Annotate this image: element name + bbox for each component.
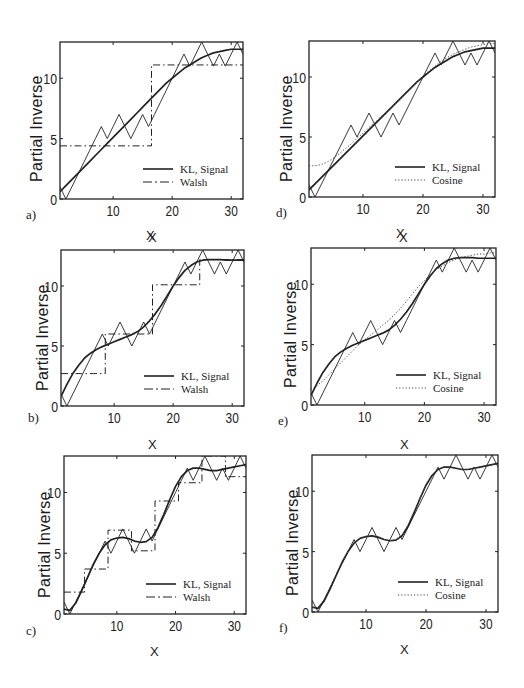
y-tick-label: 5	[51, 339, 58, 355]
y-tick-label: 5	[299, 130, 306, 146]
x-tick-label: 10	[356, 201, 369, 217]
y-tick-label: 0	[299, 190, 306, 206]
panel-c: 1020300510KL, SignalWalsh Partial Invers…	[0, 440, 262, 688]
ylabel-a: Partial Inverse	[28, 75, 46, 182]
legend-label-basis: Cosine	[435, 589, 466, 601]
panel-d: 1020300510KL, SignalCosine Partial Inver…	[262, 0, 524, 230]
ylabel-b: Partial Inverse	[34, 284, 52, 391]
legend-label-kl: KL, Signal	[435, 576, 483, 588]
panel-a: 1020300510KL, SignalWalsh Partial Invers…	[0, 0, 262, 230]
xlabel-f-top: X	[400, 437, 409, 452]
x-tick-label: 20	[169, 618, 182, 634]
x-tick-label: 10	[107, 203, 120, 219]
y-tick-label: 0	[51, 399, 58, 415]
x-tick-label: 20	[166, 203, 179, 219]
y-tick-label: 5	[54, 546, 61, 562]
x-tick-label: 10	[358, 409, 371, 425]
xlabel-e: X	[399, 230, 408, 245]
x-tick-label: 30	[226, 410, 239, 426]
plot-e: 1020300510KL, SignalCosine	[262, 220, 524, 450]
x-tick-label: 30	[477, 409, 490, 425]
series-signal	[309, 41, 495, 197]
panel-e: 1020300510KL, SignalCosine Partial Inver…	[262, 220, 524, 450]
xlabel-c: X	[150, 644, 159, 659]
xlabel-c-top: X	[148, 437, 157, 452]
series-walsh	[60, 65, 243, 146]
tag-d: d)	[276, 205, 287, 221]
x-tick-label: 30	[476, 201, 489, 217]
x-tick-label: 20	[419, 616, 432, 632]
tag-f: f)	[279, 620, 288, 636]
legend-label-kl: KL, Signal	[433, 369, 481, 381]
legend-label-kl: KL, Signal	[181, 370, 229, 382]
ylabel-d: Partial Inverse	[278, 75, 296, 182]
x-tick-label: 10	[108, 410, 121, 426]
tag-c: c)	[26, 623, 36, 639]
legend-label-kl: KL, Signal	[183, 578, 231, 590]
x-tick-label: 20	[167, 410, 180, 426]
legend-label-kl: KL, Signal	[432, 161, 480, 173]
panel-b: 1020300510KL, SignalWalsh Partial Invers…	[0, 220, 262, 450]
ylabel-c: Partial Inverse	[36, 491, 54, 598]
tag-e: e)	[278, 413, 288, 429]
x-tick-label: 30	[225, 203, 238, 219]
x-tick-label: 10	[110, 618, 123, 634]
y-tick-label: 0	[50, 192, 57, 208]
x-tick-label: 20	[416, 201, 429, 217]
tag-b: b)	[28, 410, 39, 426]
legend-label-basis: Cosine	[432, 174, 463, 186]
y-tick-label: 0	[301, 398, 308, 414]
y-tick-label: 5	[50, 131, 57, 147]
panel-f: 1020300510KL, SignalCosine Partial Inver…	[262, 440, 524, 688]
legend-label-basis: Walsh	[183, 591, 211, 603]
xlabel-b: X	[148, 230, 157, 245]
plot-d: 1020300510KL, SignalCosine	[262, 0, 524, 230]
series-signal	[312, 455, 498, 612]
series-signal	[311, 248, 496, 405]
legend-label-basis: Walsh	[180, 176, 208, 188]
ylabel-e: Partial Inverse	[282, 281, 300, 388]
series-walsh	[61, 260, 244, 374]
xlabel-f: X	[400, 642, 409, 657]
x-tick-label: 20	[418, 409, 431, 425]
y-tick-label: 0	[302, 605, 309, 621]
legend-label-basis: Cosine	[433, 382, 464, 394]
y-tick-label: 5	[302, 544, 309, 560]
legend-label-basis: Walsh	[181, 383, 209, 395]
y-tick-label: 5	[301, 337, 308, 353]
legend-label-kl: KL, Signal	[180, 163, 228, 175]
x-tick-label: 30	[228, 618, 241, 634]
ylabel-f: Partial Inverse	[284, 489, 302, 596]
y-tick-label: 0	[54, 607, 61, 623]
x-tick-label: 30	[479, 616, 492, 632]
x-tick-label: 10	[359, 616, 372, 632]
